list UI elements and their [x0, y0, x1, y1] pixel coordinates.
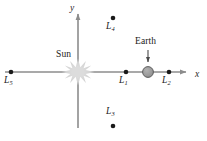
earth-icon: [143, 67, 154, 78]
lagrange-label-index-l1: 1: [125, 79, 128, 86]
lagrange-label-index-l2: 2: [168, 79, 171, 86]
y-axis-label: y: [70, 4, 74, 14]
lagrange-label-letter-l3: L: [106, 106, 111, 116]
lagrange-point-dot-l5: [9, 70, 14, 75]
lagrange-point-label-l2: L2: [162, 76, 171, 86]
lagrange-point-dot-l3: [111, 124, 116, 129]
lagrange-point-dot-l1: [124, 70, 129, 75]
lagrange-label-letter-l4: L: [106, 21, 111, 31]
lagrange-label-index-l4: 4: [112, 25, 115, 32]
earth-label: Earth: [135, 37, 156, 47]
lagrange-point-label-l4: L4: [106, 22, 115, 32]
lagrange-label-index-l5: 5: [10, 79, 13, 86]
lagrange-point-dot-l2: [167, 70, 172, 75]
lagrange-label-letter-l2: L: [162, 75, 167, 85]
sun-label: Sun: [56, 50, 71, 60]
lagrange-label-index-l3: 3: [112, 110, 115, 117]
lagrange-point-dot-l4: [111, 16, 116, 21]
lagrange-point-label-l3: L3: [106, 107, 115, 117]
lagrange-point-label-l1: L1: [119, 76, 128, 86]
lagrange-label-letter-l5: L: [4, 75, 9, 85]
x-axis-label: x: [195, 70, 199, 80]
lagrange-points-diagram: y x Sun Earth L1 L2 L3 L4 L5: [0, 0, 207, 141]
sun-icon: [62, 59, 95, 86]
diagram-canvas: [0, 0, 207, 141]
lagrange-label-letter-l1: L: [119, 75, 124, 85]
lagrange-point-label-l5: L5: [4, 76, 13, 86]
